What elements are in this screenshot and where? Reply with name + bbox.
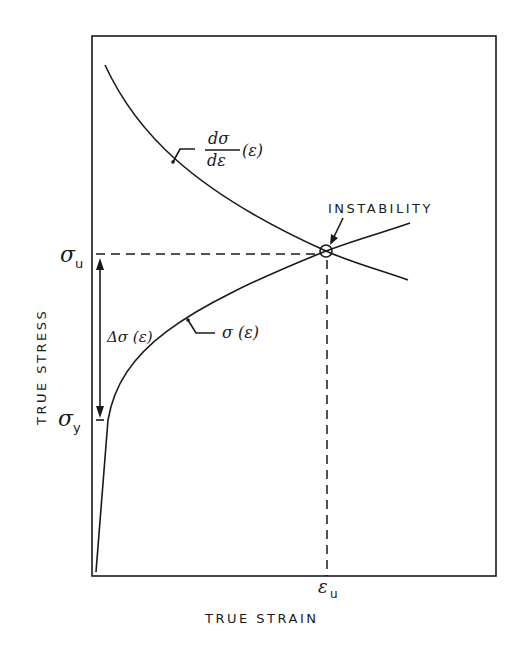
epsilon-u-symbol: ε — [318, 576, 328, 597]
y-axis-label: TRUE STRESS — [34, 309, 49, 426]
instability-label: INSTABILITY — [328, 201, 433, 216]
x-axis-label: TRUE STRAIN — [204, 611, 319, 626]
delta-sigma-arrow-head-down — [96, 406, 104, 418]
hardening-rate-curve — [105, 65, 408, 280]
sigma-u-symbol: σ — [60, 242, 76, 267]
hardening-curve-leader-dot — [171, 160, 175, 164]
hardening-label-denominator: dε — [207, 151, 226, 170]
sigma-y-subscript: y — [73, 420, 81, 435]
sigma-u-subscript: u — [75, 256, 83, 271]
stress-strain-curve — [96, 223, 410, 572]
sigma-curve-leader-dot — [186, 318, 190, 322]
hardening-label-argument: (ε) — [242, 141, 263, 160]
sigma-curve-leader — [188, 320, 215, 333]
delta-sigma-arrow-head-up — [96, 258, 104, 270]
plot-frame — [92, 36, 496, 576]
stress-strain-diagram: INSTABILITY Δσ (ε) σ (ε) dσ dε (ε) σ u σ… — [0, 0, 520, 650]
hardening-label-numerator: dσ — [208, 129, 230, 148]
sigma-y-symbol: σ — [58, 406, 74, 431]
sigma-curve-label: σ (ε) — [222, 323, 259, 342]
delta-sigma-label: Δσ (ε) — [106, 328, 153, 346]
epsilon-u-subscript: u — [330, 587, 338, 601]
